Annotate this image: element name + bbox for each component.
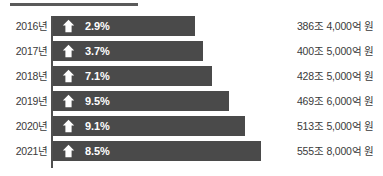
category-label-2018: 2018년: [0, 66, 48, 86]
chart-row: 2020년 9.1% 513조 5,000억 원: [0, 116, 383, 136]
up-arrow-icon: [62, 144, 75, 158]
value-label-2016: 2.9%: [85, 16, 110, 36]
up-arrow-icon: [62, 119, 75, 133]
amount-label-2021: 555조 8,000억 원: [297, 141, 374, 161]
bar-2019: 9.5%: [53, 91, 229, 111]
amount-label-2017: 400조 5,000억 원: [297, 41, 374, 61]
value-label-2018: 7.1%: [85, 66, 110, 86]
chart-row: 2018년 7.1% 428조 5,000억 원: [0, 66, 383, 86]
value-label-2019: 9.5%: [85, 91, 110, 111]
bar-2016: 2.9%: [53, 16, 195, 36]
chart-row: 2019년 9.5% 469조 6,000억 원: [0, 91, 383, 111]
amount-label-2016: 386조 4,000억 원: [297, 16, 374, 36]
category-label-2021: 2021년: [0, 141, 48, 161]
category-label-2016: 2016년: [0, 16, 48, 36]
chart-row: 2021년 8.5% 555조 8,000억 원: [0, 141, 383, 161]
bar-chart-figure: 2016년 2.9% 386조 4,000억 원 2017년 3.7: [0, 0, 383, 176]
category-label-2019: 2019년: [0, 91, 48, 111]
value-label-2021: 8.5%: [85, 141, 110, 161]
chart-row: 2016년 2.9% 386조 4,000억 원: [0, 16, 383, 36]
amount-label-2019: 469조 6,000억 원: [297, 91, 374, 111]
amount-label-2020: 513조 5,000억 원: [297, 116, 374, 136]
bar-2020: 9.1%: [53, 116, 245, 136]
value-label-2020: 9.1%: [85, 116, 110, 136]
bar-2017: 3.7%: [53, 41, 203, 61]
up-arrow-icon: [62, 44, 75, 58]
category-label-2017: 2017년: [0, 41, 48, 61]
top-divider-rule: [10, 3, 138, 6]
up-arrow-icon: [62, 19, 75, 33]
bar-2018: 7.1%: [53, 66, 212, 86]
up-arrow-icon: [62, 69, 75, 83]
up-arrow-icon: [62, 94, 75, 108]
value-label-2017: 3.7%: [85, 41, 110, 61]
bar-2021: 8.5%: [53, 141, 261, 161]
amount-label-2018: 428조 5,000억 원: [297, 66, 374, 86]
category-label-2020: 2020년: [0, 116, 48, 136]
chart-plot-area: 2016년 2.9% 386조 4,000억 원 2017년 3.7: [0, 16, 383, 168]
chart-row: 2017년 3.7% 400조 5,000억 원: [0, 41, 383, 61]
